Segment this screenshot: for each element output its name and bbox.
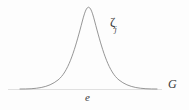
plot-canvas [0, 0, 189, 110]
mean-label: e [85, 92, 90, 103]
bell-curve-path [20, 7, 157, 89]
curve-label-subscript: j [114, 25, 116, 34]
gaussian-curve-figure: ζj e G [0, 0, 189, 110]
curve-label: ζj [110, 15, 118, 32]
axis-label: G [168, 78, 177, 90]
